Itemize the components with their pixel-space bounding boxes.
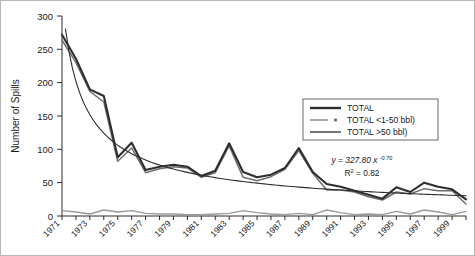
legend-label-total-large: TOTAL >50 bbl) [347, 127, 407, 137]
y-ticks [57, 16, 62, 216]
x-tick-label-1997: 1997 [403, 218, 424, 239]
x-tick-label-1979: 1979 [152, 218, 173, 239]
y-tick-label-200: 200 [37, 77, 53, 88]
x-tick-label-1971: 1971 [41, 218, 62, 239]
y-tick-label-250: 250 [37, 44, 53, 55]
legend-label-total-small: TOTAL <1-50 bbl) [347, 115, 415, 125]
x-tick-label-1995: 1995 [375, 218, 396, 239]
y-tick-label-50: 50 [42, 177, 53, 188]
y-tick-label-300: 300 [37, 11, 53, 22]
x-tick-label-1999: 1999 [431, 218, 452, 239]
series-line-total-small [62, 210, 466, 215]
y-axis: 300 250 200 150 100 50 0 Number of Spill… [10, 11, 62, 222]
x-tick-label-1977: 1977 [125, 218, 146, 239]
x-tick-labels: 1971197319751977197919811983198519871989… [41, 218, 452, 239]
y-tick-label-100: 100 [37, 144, 53, 155]
legend-swatch-total-small-dot [334, 119, 337, 122]
x-tick-label-1993: 1993 [347, 218, 368, 239]
legend-label-total: TOTAL [347, 103, 374, 113]
x-ticks [62, 216, 466, 220]
trend-r2: R2 = 0.82 [344, 168, 379, 178]
x-tick-label-1985: 1985 [236, 218, 257, 239]
x-tick-label-1983: 1983 [208, 218, 229, 239]
x-tick-label-1981: 1981 [180, 218, 201, 239]
x-axis: 1971197319751977197919811983198519871989… [41, 216, 466, 239]
y-tick-label-150: 150 [37, 111, 53, 122]
x-tick-label-1987: 1987 [264, 218, 285, 239]
trend-equation: y = 327.80 x -0.70 [331, 155, 393, 165]
legend: TOTAL TOTAL <1-50 bbl) TOTAL >50 bbl) [303, 99, 438, 140]
x-tick-label-1989: 1989 [292, 218, 313, 239]
equation-annotation: y = 327.80 x -0.70 R2 = 0.82 [331, 155, 393, 178]
chart-container: 300 250 200 150 100 50 0 Number of Spill… [0, 0, 475, 256]
spills-line-chart: 300 250 200 150 100 50 0 Number of Spill… [0, 0, 475, 256]
x-tick-label-1975: 1975 [97, 218, 118, 239]
y-axis-title: Number of Spills [10, 79, 21, 152]
x-tick-label-1991: 1991 [320, 218, 341, 239]
x-tick-label-1973: 1973 [69, 218, 90, 239]
